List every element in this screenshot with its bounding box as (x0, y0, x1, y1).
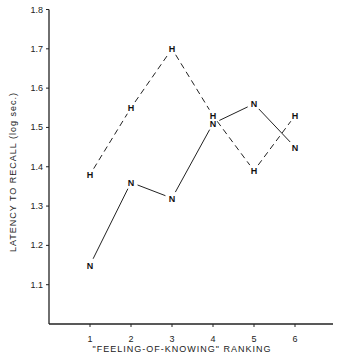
x-tick-label: 6 (292, 334, 297, 344)
y-axis-label: LATENCY TO RECALL (log sec.) (8, 92, 18, 252)
series-h-marker: H (169, 44, 176, 54)
series-n-marker: N (128, 178, 135, 188)
y-tick-label: 1.2 (30, 240, 43, 250)
x-tick-label: 4 (210, 334, 215, 344)
series-h-segment (94, 114, 128, 169)
series-n-marker: N (169, 194, 176, 204)
series-n-segment (219, 107, 247, 121)
series-h-segment (135, 55, 168, 102)
x-tick-label: 2 (128, 334, 133, 344)
y-tick-label: 1.5 (30, 122, 43, 132)
series-n-segment (259, 109, 290, 142)
series-n-marker: N (210, 119, 217, 129)
series-h-marker: H (292, 111, 299, 121)
y-tick-label: 1.4 (30, 162, 43, 172)
x-tick-label: 5 (251, 334, 256, 344)
y-tick-label: 1.3 (30, 201, 43, 211)
x-axis-label: "FEELING-OF-KNOWING" RANKING (93, 344, 272, 354)
y-tick-label: 1.8 (30, 5, 43, 15)
x-tick-label: 3 (169, 334, 174, 344)
series-n-marker: N (292, 143, 299, 153)
x-tick-label: 1 (87, 334, 92, 344)
series-h-segment (258, 121, 291, 165)
y-tick-label: 1.1 (30, 280, 43, 290)
series-n-segment (93, 189, 128, 259)
series-n-segment (175, 130, 209, 192)
series-h-marker: H (87, 170, 94, 180)
series-h-marker: H (128, 103, 135, 113)
series-h-marker: H (251, 166, 258, 176)
series-n-segment (138, 185, 166, 196)
series-h-segment (217, 121, 250, 165)
series-n-marker: N (87, 261, 94, 271)
series-h-segment (176, 55, 210, 110)
chart: 1.11.21.31.41.51.61.71.8123456"FEELING-O… (0, 0, 339, 362)
y-tick-label: 1.6 (30, 83, 43, 93)
y-tick-label: 1.7 (30, 44, 43, 54)
series-n-marker: N (251, 99, 258, 109)
